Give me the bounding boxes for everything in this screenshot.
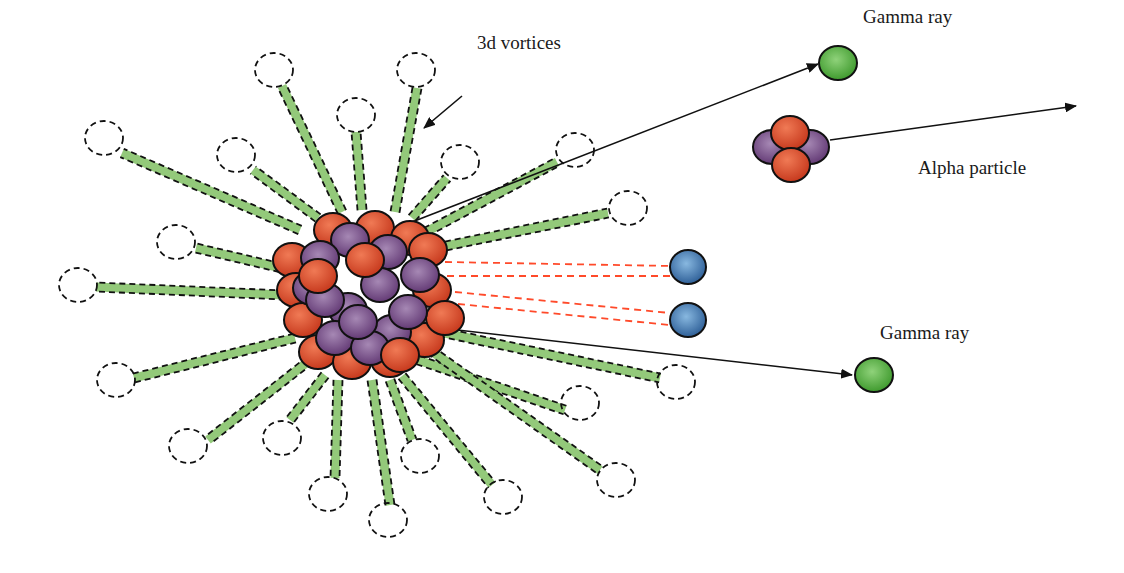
vortex-end-icon [657,365,695,399]
decay-diagram [0,0,1124,573]
vortex-end-icon [337,98,375,132]
gamma-bottom-arrow [440,328,852,375]
vortex-end-icon [85,121,123,155]
vortex-end-icon [59,268,97,302]
electrons [670,250,706,337]
vortex-end-icon [401,439,439,473]
gamma-bottom-icon [855,358,893,392]
label-3d-vortices: 3d vortices [477,32,561,54]
neutron-icon [389,295,427,329]
vortex-end-icon [369,503,407,537]
proton-icon [299,259,337,293]
vortex-end-icon [441,145,479,179]
vortex-end-icon [556,133,594,167]
vortex-end-icon [255,53,293,87]
gamma-top-icon [819,46,857,80]
vortex-end-icon [561,386,599,420]
vortex-end-icon [609,191,647,225]
alpha-particle-icon [753,116,829,182]
trajectories [412,64,1076,375]
proton-icon [426,301,464,335]
proton-icon [346,243,384,277]
label-alpha-particle: Alpha particle [918,157,1026,179]
neutron-icon [339,305,377,339]
vortex-end-icon [597,463,635,497]
label-gamma-ray-bottom: Gamma ray [880,322,969,344]
proton-icon [381,338,419,372]
neutron-icon [401,258,439,292]
vortex-end-icon [397,53,435,87]
vortex-end-icon [97,363,135,397]
vortex-end-icon [309,477,347,511]
label-gamma-ray-top: Gamma ray [863,6,952,28]
vortex-end-icon [157,225,195,259]
alpha-arrow [830,106,1076,140]
nucleus [273,211,464,379]
vortex-end-icon [169,429,207,463]
vortex-end-icon [263,421,301,455]
electron-icon [670,250,706,284]
vortex-end-icon [217,138,255,172]
vortex-pointer-arrow [424,96,462,128]
electron-icon [670,303,706,337]
electron-paths [445,262,672,325]
